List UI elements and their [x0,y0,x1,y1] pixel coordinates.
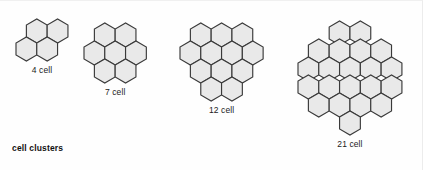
hexagon-cell [16,37,37,61]
hexagon-cell [340,111,361,135]
cluster-4-cell-label: 4 cell [14,65,70,75]
cluster-21-cell [296,19,404,137]
cluster-21-cell-hexagons [296,19,404,137]
cluster-4-cell-hexagons [14,17,70,63]
cluster-12-cell-hexagons [178,21,265,103]
figure-caption: cell clusters [12,143,63,153]
hexagon-cell [94,59,115,83]
cluster-7-cell-hexagons [82,21,148,85]
cell-clusters-figure: 4 cell 7 cell 12 cell 21 cell cell clust… [0,0,423,170]
cluster-7-cell [82,21,148,85]
hexagon-cell [308,93,329,117]
hexagon-cell [201,77,222,101]
cluster-7-cell-label: 7 cell [82,87,148,97]
cluster-12-cell-label: 12 cell [178,105,265,115]
hexagon-cell [115,59,136,83]
cluster-12-cell [178,21,265,103]
hexagon-cell [222,77,243,101]
hexagon-cell [371,93,392,117]
cluster-4-cell [14,17,70,63]
hexagon-cell [37,37,58,61]
cluster-21-cell-label: 21 cell [296,139,404,149]
